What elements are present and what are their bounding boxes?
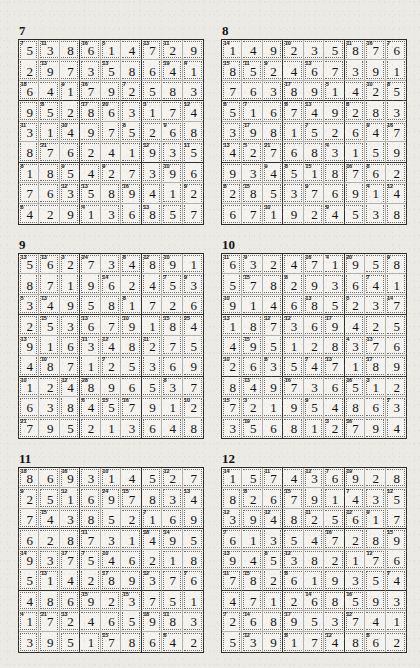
sudoku-cell[interactable]: 1 (386, 274, 406, 294)
sudoku-cell[interactable]: 4 (121, 40, 141, 60)
sudoku-cell[interactable]: 1 (142, 315, 162, 335)
sudoku-cell[interactable]: 82 (345, 101, 365, 121)
sudoku-cell[interactable]: 5 (80, 295, 100, 315)
sudoku-cell[interactable]: 92 (263, 60, 283, 80)
sudoku-cell[interactable]: 75 (80, 550, 100, 570)
sudoku-cell[interactable]: 9 (386, 356, 406, 376)
sudoku-cell[interactable]: 102 (365, 81, 385, 101)
sudoku-cell[interactable]: 178 (80, 101, 100, 121)
sudoku-cell[interactable]: 8 (60, 40, 80, 60)
sudoku-cell[interactable]: 6 (324, 183, 344, 203)
sudoku-cell[interactable]: 6 (60, 142, 80, 162)
sudoku-cell[interactable]: 2 (263, 570, 283, 590)
sudoku-cell[interactable]: 6 (142, 632, 162, 652)
sudoku-cell[interactable]: 178 (283, 81, 303, 101)
sudoku-cell[interactable]: 6 (101, 611, 121, 631)
sudoku-cell[interactable]: 2 (365, 468, 385, 488)
sudoku-cell[interactable]: 159 (80, 591, 100, 611)
sudoku-cell[interactable]: 177 (60, 550, 80, 570)
sudoku-cell[interactable]: 8 (345, 632, 365, 652)
sudoku-cell[interactable]: 5 (121, 356, 141, 376)
sudoku-cell[interactable]: 9 (183, 40, 203, 60)
sudoku-cell[interactable]: 8 (121, 336, 141, 356)
sudoku-cell[interactable]: 139 (39, 60, 59, 80)
sudoku-cell[interactable]: 5 (60, 632, 80, 652)
sudoku-cell[interactable]: 82 (283, 274, 303, 294)
sudoku-cell[interactable]: 3 (324, 274, 344, 294)
sudoku-cell[interactable]: 195 (242, 418, 262, 438)
sudoku-cell[interactable]: 9 (304, 81, 324, 101)
sudoku-cell[interactable]: 124 (263, 509, 283, 529)
sudoku-cell[interactable]: 86 (365, 632, 385, 652)
sudoku-cell[interactable]: 74 (304, 356, 324, 376)
sudoku-cell[interactable]: 199 (345, 468, 365, 488)
sudoku-cell[interactable]: 3 (324, 611, 344, 631)
sudoku-cell[interactable]: 124 (386, 183, 406, 203)
sudoku-cell[interactable]: 146 (242, 611, 262, 631)
sudoku-cell[interactable]: 178 (101, 570, 121, 590)
sudoku-cell[interactable]: 3 (365, 295, 385, 315)
sudoku-cell[interactable]: 6 (183, 163, 203, 183)
sudoku-cell[interactable]: 179 (283, 611, 303, 631)
sudoku-cell[interactable]: 154 (39, 509, 59, 529)
sudoku-cell[interactable]: 9 (80, 274, 100, 294)
sudoku-cell[interactable]: 3 (386, 101, 406, 121)
sudoku-cell[interactable]: 138 (304, 295, 324, 315)
sudoku-cell[interactable]: 9 (222, 163, 242, 183)
sudoku-cell[interactable]: 123 (222, 509, 242, 529)
sudoku-cell[interactable]: 9 (60, 295, 80, 315)
sudoku-cell[interactable]: 8 (345, 397, 365, 417)
sudoku-cell[interactable]: 96 (162, 122, 182, 142)
sudoku-cell[interactable]: 9 (19, 101, 39, 121)
sudoku-cell[interactable]: 85 (222, 101, 242, 121)
sudoku-cell[interactable]: 74 (386, 570, 406, 590)
sudoku-cell[interactable]: 109 (162, 163, 182, 183)
sudoku-cell[interactable]: 155 (101, 397, 121, 417)
sudoku-cell[interactable]: 158 (242, 183, 262, 203)
sudoku-cell[interactable]: 186 (19, 81, 39, 101)
sudoku-cell[interactable]: 3 (242, 163, 262, 183)
sudoku-cell[interactable]: 126 (345, 509, 365, 529)
sudoku-cell[interactable]: 76 (183, 570, 203, 590)
sudoku-cell[interactable]: 146 (304, 591, 324, 611)
sudoku-cell[interactable]: 6 (60, 591, 80, 611)
sudoku-cell[interactable]: 1 (263, 397, 283, 417)
sudoku-cell[interactable]: 4 (222, 336, 242, 356)
sudoku-cell[interactable]: 9 (183, 509, 203, 529)
sudoku-cell[interactable]: 7 (183, 468, 203, 488)
sudoku-cell[interactable]: 6 (263, 101, 283, 121)
sudoku-cell[interactable]: 122 (162, 468, 182, 488)
sudoku-cell[interactable]: 167 (304, 254, 324, 274)
sudoku-cell[interactable]: 6 (162, 356, 182, 376)
sudoku-cell[interactable]: 6 (142, 60, 162, 80)
sudoku-cell[interactable]: 7 (142, 295, 162, 315)
sudoku-cell[interactable]: 117 (80, 529, 100, 549)
sudoku-cell[interactable]: 2 (162, 295, 182, 315)
sudoku-cell[interactable]: 4 (304, 529, 324, 549)
sudoku-cell[interactable]: 92 (183, 183, 203, 203)
sudoku-cell[interactable]: 157 (121, 488, 141, 508)
sudoku-cell[interactable]: 9 (365, 591, 385, 611)
sudoku-cell[interactable]: 2 (39, 529, 59, 549)
sudoku-cell[interactable]: 113 (19, 122, 39, 142)
sudoku-cell[interactable]: 8 (304, 142, 324, 162)
sudoku-cell[interactable]: 2 (101, 591, 121, 611)
sudoku-cell[interactable]: 167 (365, 40, 385, 60)
sudoku-cell[interactable]: 117 (222, 570, 242, 590)
sudoku-cell[interactable]: 1 (304, 418, 324, 438)
sudoku-cell[interactable]: 3 (60, 509, 80, 529)
sudoku-cell[interactable]: 113 (39, 40, 59, 60)
sudoku-cell[interactable]: 85 (121, 122, 141, 142)
sudoku-cell[interactable]: 95 (60, 163, 80, 183)
sudoku-cell[interactable]: 3 (283, 183, 303, 203)
sudoku-cell[interactable]: 8 (324, 336, 344, 356)
sudoku-cell[interactable]: 121 (60, 488, 80, 508)
sudoku-cell[interactable]: 3 (101, 204, 121, 224)
sudoku-cell[interactable]: 116 (222, 254, 242, 274)
sudoku-cell[interactable]: 7 (242, 591, 262, 611)
sudoku-cell[interactable]: 5 (222, 632, 242, 652)
sudoku-cell[interactable]: 1 (39, 336, 59, 356)
sudoku-cell[interactable]: 9 (365, 418, 385, 438)
sudoku-cell[interactable]: 2 (263, 254, 283, 274)
sudoku-cell[interactable]: 167 (283, 377, 303, 397)
